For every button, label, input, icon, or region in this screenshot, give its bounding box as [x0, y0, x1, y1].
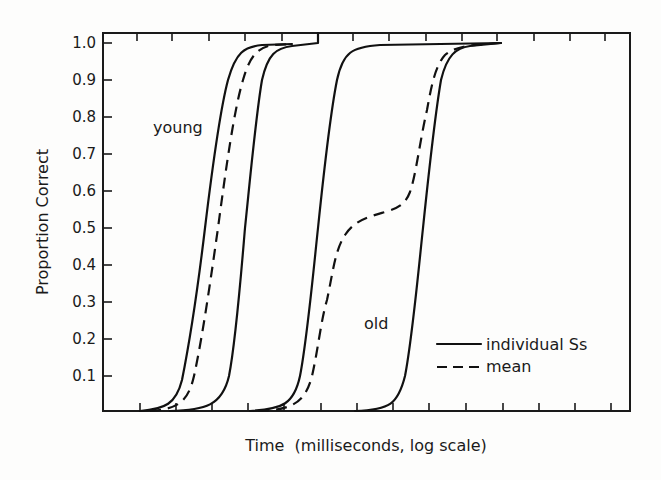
y-tick-label-0.1: 0.1 — [72, 367, 96, 385]
young-mean-curve — [150, 44, 292, 411]
top-axis-ticks — [137, 33, 605, 41]
y-axis-ticks — [103, 43, 112, 376]
young-curves — [140, 33, 318, 411]
y-tick-label-0.5: 0.5 — [72, 219, 96, 237]
y-tick-label-0.7: 0.7 — [72, 145, 96, 163]
y-tick-label-0.9: 0.9 — [72, 71, 96, 89]
y-tick-label-0.4: 0.4 — [72, 256, 96, 274]
y-axis-tick-labels: 1.0 0.9 0.8 0.7 0.6 0.5 0.4 0.3 0.2 0.1 — [72, 34, 96, 385]
old-individual-curve-slow — [355, 43, 501, 411]
legend-mean-label: mean — [486, 357, 531, 376]
legend-individual-label: individual Ss — [486, 335, 587, 354]
legend: individual Ss mean — [437, 335, 587, 376]
young-individual-curve-slow — [170, 33, 318, 411]
old-curves — [250, 43, 501, 411]
proportion-correct-chart: 1.0 0.9 0.8 0.7 0.6 0.5 0.4 0.3 0.2 0.1 — [0, 0, 661, 480]
x-axis-title: Time (milliseconds, log scale) — [244, 436, 486, 455]
old-mean-curve — [258, 43, 500, 411]
young-group-label: young — [153, 118, 203, 137]
y-tick-label-0.6: 0.6 — [72, 182, 96, 200]
y-tick-label-0.3: 0.3 — [72, 293, 96, 311]
y-tick-label-0.8: 0.8 — [72, 108, 96, 126]
old-group-label: old — [364, 314, 388, 333]
y-tick-label-1.0: 1.0 — [72, 34, 96, 52]
y-tick-label-0.2: 0.2 — [72, 330, 96, 348]
old-individual-curve-fast — [250, 43, 501, 411]
young-individual-curve-fast — [140, 44, 292, 411]
plot-frame — [103, 33, 630, 411]
y-axis-title: Proportion Correct — [33, 149, 52, 295]
